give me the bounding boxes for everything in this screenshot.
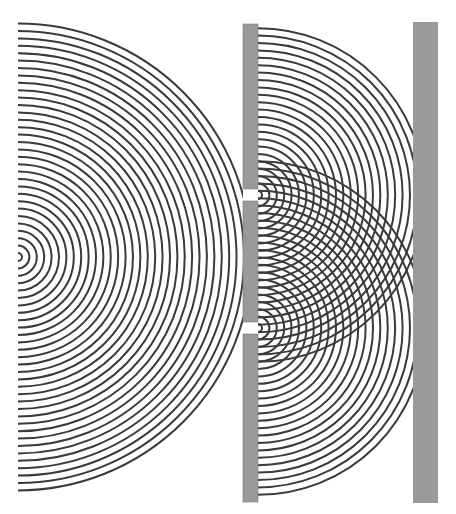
barrier-middle-segment xyxy=(243,201,258,322)
wavefront-arc xyxy=(18,68,207,446)
wavefront-arc xyxy=(18,194,81,320)
incident-wavefronts xyxy=(18,24,251,491)
barrier-top-segment xyxy=(243,24,258,189)
barrier-bottom-segment xyxy=(243,334,258,502)
double-slit-diagram xyxy=(0,0,456,514)
wavefront-arc xyxy=(18,253,22,261)
wavefront-arc xyxy=(18,216,59,298)
wavefront-arc xyxy=(18,238,37,276)
wavefront-arc xyxy=(258,176,277,214)
wavefront-arc xyxy=(258,309,277,347)
wavefront-arc xyxy=(18,172,103,343)
wavefront-arc xyxy=(18,246,29,269)
detection-screen xyxy=(413,22,438,503)
wavefront-arc xyxy=(258,184,269,207)
wavefront-arc xyxy=(258,317,269,340)
slit-barrier xyxy=(243,24,258,502)
wavefront-arc xyxy=(18,223,52,290)
wavefront-arc xyxy=(18,142,133,372)
wavefront-arc xyxy=(18,90,185,424)
